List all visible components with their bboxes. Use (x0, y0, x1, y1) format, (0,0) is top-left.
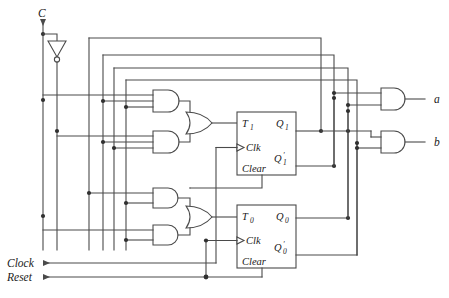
circuit-schematic-svg: C Clock Reset T 1 Clk Clear Q 1 Q ′ 1 T … (0, 0, 449, 298)
label-ff1-clear: Clear (242, 163, 267, 174)
label-ff0-clk: Clk (246, 235, 261, 246)
label-ff1-t-sub: 1 (250, 123, 254, 132)
and-gate-3 (87, 188, 190, 211)
label-ff1-q-sub: 1 (285, 123, 289, 132)
and-gate-output-a (332, 88, 425, 110)
circuit-diagram: C Clock Reset T 1 Clk Clear Q 1 Q ′ 1 T … (0, 0, 449, 298)
label-input-clock: Clock (7, 257, 35, 269)
and-gate-output-b (355, 131, 425, 153)
or-gate-0 (186, 206, 237, 228)
label-input-reset: Reset (6, 271, 33, 283)
label-ff1-q: Q (276, 118, 284, 129)
feedback-top-wires (89, 38, 357, 255)
label-ff0-t-sub: 0 (250, 216, 254, 225)
not-gate-c (43, 34, 66, 250)
label-ff0-clear: Clear (242, 256, 267, 267)
or-gate-1 (186, 112, 237, 134)
q0-output-wires (296, 216, 357, 255)
label-output-a: a (434, 93, 440, 105)
right-feedback-verticals (332, 96, 359, 255)
label-ff1-qbar-sub: 1 (283, 158, 287, 167)
reset-bus (43, 274, 262, 280)
and-gate-2 (57, 128, 190, 153)
label-ff0-qbar-sub: 0 (283, 247, 287, 256)
label-ff1-qbar: Q (274, 153, 282, 164)
label-ff0-q: Q (276, 211, 284, 222)
label-output-b: b (434, 136, 440, 148)
and-gate-1 (43, 90, 190, 117)
label-ff0-q-sub: 0 (285, 216, 289, 225)
input-c-bus (40, 19, 46, 250)
label-input-c: C (38, 7, 46, 19)
label-ff1-clk: Clk (246, 142, 261, 153)
feedback-bus-lines (89, 38, 126, 250)
and-gate-4 (43, 222, 190, 245)
clock-bus (43, 260, 216, 266)
label-ff0-qbar: Q (274, 242, 282, 253)
